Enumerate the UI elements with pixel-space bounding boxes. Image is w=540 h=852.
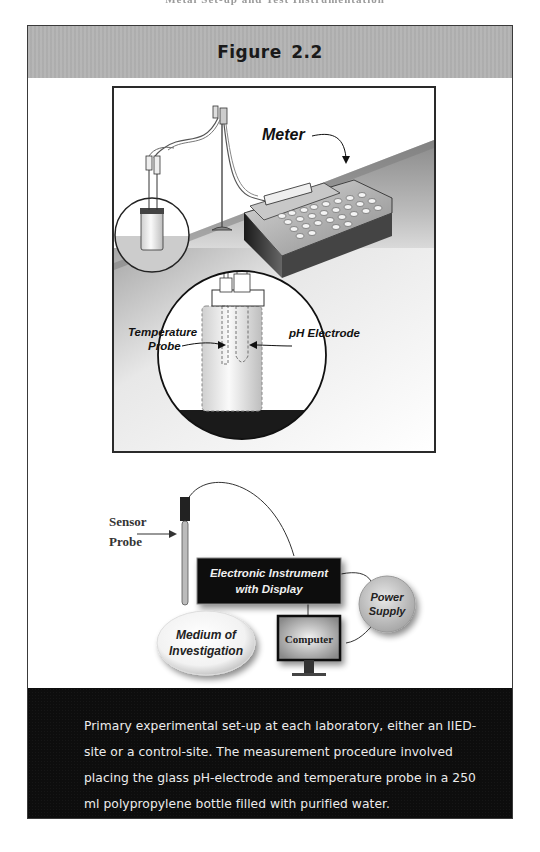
sensor-probe-label: Sensor [109, 514, 147, 529]
figure-title: Figure 2.2 [217, 42, 323, 62]
lab-setup-illustration: Meter Temperature Probe [112, 86, 436, 453]
temperature-probe-label: Temperature [128, 326, 198, 338]
meter-label: Meter [262, 126, 305, 143]
electronic-instrument-box [197, 558, 341, 604]
figure-caption-box: Primary experimental set-up at each labo… [28, 688, 512, 818]
running-header: Metal Set-up and Test Instrumentation [140, 0, 410, 5]
computer-label: Computer [285, 633, 333, 645]
figure-caption: Primary experimental set-up at each labo… [84, 713, 484, 817]
medium-ellipse [157, 611, 255, 675]
medium-label-2: Investigation [169, 644, 243, 658]
computer-monitor: Computer [278, 616, 340, 676]
power-supply-circle [359, 576, 415, 632]
figure-container: Figure 2.2 [27, 25, 513, 819]
measurement-schematic: Sensor Probe Electronic Instrument with … [101, 471, 441, 686]
temperature-probe-label-2: Probe [148, 340, 181, 352]
instrument-label-2: with Display [235, 583, 303, 595]
sensor-probe-label-2: Probe [109, 534, 142, 549]
instrument-label: Electronic Instrument [210, 567, 329, 579]
medium-label: Medium of [176, 628, 237, 642]
figure-header: Figure 2.2 [28, 26, 512, 78]
ph-electrode-label: pH Electrode [288, 327, 361, 339]
power-supply-label-2: Supply [369, 605, 407, 617]
power-supply-label: Power [370, 591, 404, 603]
